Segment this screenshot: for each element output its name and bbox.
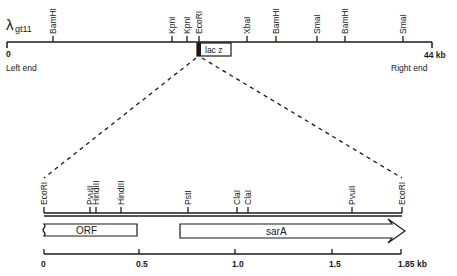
scale-bar: 00.51.01.51.85 kb [41,249,427,269]
site-label: XbaI [242,17,252,35]
scale-tick-label: 1.5 [329,259,341,269]
site-label: EcoRI [194,11,204,34]
start-label: 0 [6,49,11,59]
site-label: ClaI [243,190,253,205]
expansion-line-left [44,58,196,178]
insert-marker [197,43,201,56]
scale-ticks: 00.51.01.51.85 kb [41,249,427,269]
site-label: KpnI [167,17,177,35]
site-label: EcoRI [39,182,49,205]
sara-label: sarA [266,226,287,237]
site-label: BamHI [271,8,281,34]
right-end-label: Right end [391,63,428,73]
sara-arrow [180,219,405,243]
phage-subscript: gt11 [15,24,32,34]
scale-tick-label: 0.5 [136,259,148,269]
site-label: SmaI [398,14,408,34]
scale-tick-label: 1.85 kb [398,259,427,269]
site-label: SmaI [312,14,322,34]
site-label: BamHI [48,8,58,34]
end-label: 44 kb [424,50,446,60]
lambda-symbol: λ [6,16,14,33]
site-label: KpnI [182,17,192,35]
restriction-map-figure: λ gt11 BamHIKpnIKpnIEcoRIXbaIBamHISmaIBa… [0,0,457,276]
site-label: PvuII [347,186,357,205]
site-label: EcoRI [397,182,407,205]
site-label: BamHI [340,8,350,34]
site-label: HindIII [116,180,126,205]
orf-label: ORF [76,225,97,236]
scale-tick-label: 0 [41,259,46,269]
insert-map: EcoRIPvuIIHindIIIHindIIIPstIClaIClaIPvuI… [39,180,407,243]
insert-restriction-sites: EcoRIPvuIIHindIIIHindIIIPstIClaIClaIPvuI… [39,180,407,213]
site-label: PstI [183,190,193,205]
lambda-gt11-map: λ gt11 BamHIKpnIKpnIEcoRIXbaIBamHISmaIBa… [6,8,446,73]
top-restriction-sites: BamHIKpnIKpnIEcoRIXbaIBamHISmaIBamHISmaI [48,8,408,42]
site-label: ClaI [232,190,242,205]
left-end-label: Left end [6,63,37,73]
expansion-line-right [202,58,402,178]
scale-tick-label: 1.0 [232,259,244,269]
lac-z-label: lac z [205,45,222,55]
site-label: HindIII [91,180,101,205]
